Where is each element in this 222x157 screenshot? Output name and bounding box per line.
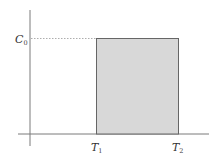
c0-label: C0 (15, 33, 28, 47)
pulse-diagram: C0 T1 T2 (0, 0, 222, 157)
pulse-rectangle (97, 39, 179, 135)
t1-label: T1 (91, 141, 102, 155)
t2-label: T2 (172, 141, 183, 155)
